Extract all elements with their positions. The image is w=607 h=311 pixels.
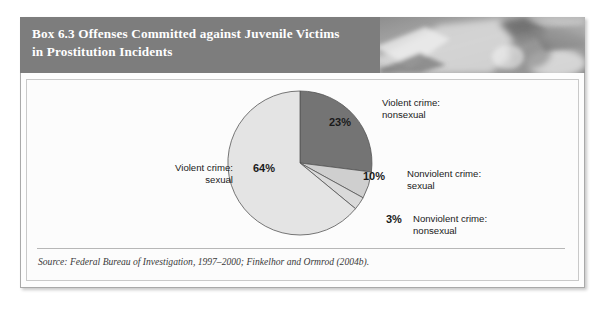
pie-label-violent-sexual: Violent crime: sexual [155, 162, 233, 185]
pie-label-violent-nonsexual: Violent crime: nonsexual [382, 97, 440, 120]
pie-value-violent-nonsexual: 23% [329, 116, 351, 128]
pie-chart-svg [203, 88, 403, 238]
header-photo [380, 17, 585, 73]
box-header-band: Box 6.3 Offenses Committed against Juven… [20, 17, 585, 73]
pie-label-nonviolent-sexual: Nonviolent crime: sexual [407, 168, 481, 191]
source-divider [37, 248, 565, 249]
pie-label-nonviolent-nonsexual: Nonviolent crime: nonsexual [413, 213, 487, 236]
page-title: Box 6.3 Offenses Committed against Juven… [32, 25, 382, 61]
pie-slice-violent-nonsexual [300, 91, 372, 172]
pie-value-nonviolent-sexual: 10% [363, 170, 385, 182]
pie-value-violent-sexual: 64% [253, 162, 275, 174]
pie-chart: 23% 64% 10% 3% Violent crime: nonsexual … [27, 80, 580, 240]
header-photo-image [380, 17, 585, 73]
pie-value-nonviolent-nonsexual: 3% [386, 213, 402, 225]
content-panel: 23% 64% 10% 3% Violent crime: nonsexual … [26, 79, 579, 281]
source-note: Source: Federal Bureau of Investigation,… [38, 256, 369, 267]
